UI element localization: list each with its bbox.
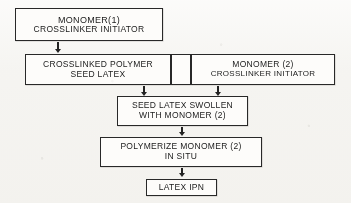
arrow-monomer1-to-seedlatex	[56, 42, 59, 53]
arrow-head	[215, 92, 221, 96]
arrow-head	[179, 132, 185, 136]
node-latex-ipn-label: LATEX IPN	[159, 183, 205, 193]
arrow-monomer2-to-swollen	[216, 86, 219, 96]
arrow-head	[179, 173, 185, 177]
node-monomer-2-line-2: CROSSLINKER INITIATOR	[211, 70, 316, 79]
arrow-seedlatex-to-swollen	[142, 86, 145, 96]
flowchart-canvas: MONOMER(1) CROSSLINKER INITIATOR CROSSLI…	[0, 0, 351, 203]
node-monomer-1-line-2: CROSSLINKER INITIATOR	[34, 25, 145, 35]
arrow-head	[141, 92, 147, 96]
arrow-head	[55, 49, 61, 53]
node-polymerize-line-2: IN SITU	[165, 152, 197, 162]
node-monomer-1: MONOMER(1) CROSSLINKER INITIATOR	[15, 8, 163, 41]
node-monomer-2: MONOMER (2) CROSSLINKER INITIATOR	[191, 54, 335, 85]
arrow-polymerize-to-ipn	[180, 168, 183, 178]
node-latex-ipn: LATEX IPN	[146, 179, 217, 196]
node-seed-latex-swollen: SEED LATEX SWOLLEN WITH MONOMER (2)	[117, 96, 248, 126]
node-spacer-cell	[171, 54, 191, 85]
node-crosslinked-line-2: SEED LATEX	[71, 70, 126, 80]
arrow-swollen-to-polymerize	[180, 127, 183, 137]
node-crosslinked-polymer-seed-latex: CROSSLINKED POLYMER SEED LATEX	[25, 54, 171, 85]
node-swollen-line-2: WITH MONOMER (2)	[139, 111, 226, 121]
node-polymerize-monomer-2: POLYMERIZE MONOMER (2) IN SITU	[100, 137, 262, 167]
